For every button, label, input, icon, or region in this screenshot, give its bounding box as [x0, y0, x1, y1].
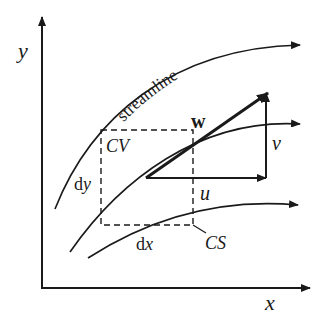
dy-label: dy	[74, 174, 91, 194]
vector-w	[146, 93, 268, 178]
x-axis-label: x	[264, 290, 275, 315]
u-label: u	[200, 182, 210, 204]
streamline-top	[55, 45, 300, 209]
dx-label: dx	[136, 234, 153, 254]
streamline-label: streamline	[113, 65, 181, 125]
y-axis-label: y	[16, 38, 28, 63]
diagram-canvas: y x streamline CV CS dy dx w u v	[0, 0, 325, 329]
cs-label: CS	[205, 233, 226, 253]
w-label: w	[191, 110, 206, 132]
cv-label: CV	[106, 136, 131, 156]
v-label: v	[272, 132, 281, 154]
cs-leader-line	[193, 225, 206, 233]
